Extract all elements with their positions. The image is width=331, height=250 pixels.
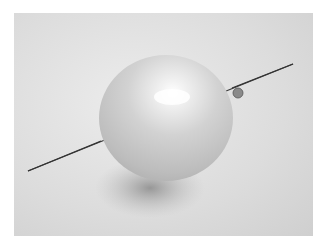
balloon-knot: [233, 88, 243, 98]
highlight: [154, 89, 190, 105]
balloon-scene: [0, 0, 331, 250]
needle-left: [28, 141, 101, 171]
balloon: [99, 55, 233, 181]
needle-right: [232, 64, 293, 88]
